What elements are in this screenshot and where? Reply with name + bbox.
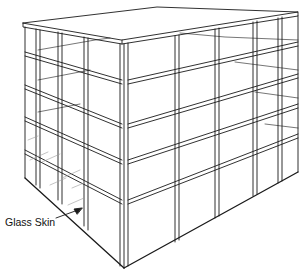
glass-skin-label: Glass Skin — [5, 216, 55, 228]
corner-column — [120, 43, 128, 268]
building-frame-diagram — [0, 0, 307, 280]
right-face-floor-beams — [128, 42, 298, 204]
interior-back-beams — [38, 33, 298, 128]
left-face-columns — [25, 27, 88, 230]
